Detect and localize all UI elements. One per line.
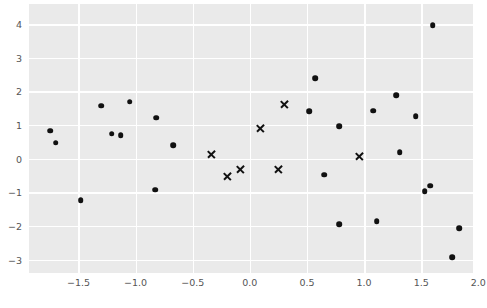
y-gridline [29, 260, 473, 261]
x-gridline [136, 4, 137, 273]
x-gridline [364, 4, 365, 273]
x-tick-label: 1.0 [357, 277, 372, 288]
x-tick-label: 0.5 [299, 277, 314, 288]
data-point-cross [236, 165, 245, 174]
data-point-circle [336, 123, 342, 129]
data-point-cross [223, 172, 232, 181]
y-gridline [29, 91, 473, 92]
data-point-circle [118, 133, 124, 139]
y-tick-label: 0 [16, 153, 22, 164]
x-gridline [421, 4, 422, 273]
y-gridline [29, 125, 473, 126]
data-point-circle [153, 115, 159, 121]
data-point-circle [321, 172, 327, 178]
y-gridline [29, 226, 473, 227]
y-tick-label: 2 [16, 86, 22, 97]
data-point-circle [370, 108, 376, 114]
data-point-circle [47, 128, 53, 134]
y-gridline [29, 159, 473, 160]
y-gridline [29, 192, 473, 193]
y-gridline [29, 58, 473, 59]
data-point-circle [312, 75, 318, 81]
data-point-circle [152, 187, 158, 193]
data-point-circle [413, 114, 419, 120]
data-point-cross [355, 152, 364, 161]
x-tick-label: 1.5 [414, 277, 429, 288]
x-gridline [250, 4, 251, 273]
data-point-circle [456, 225, 462, 231]
data-point-circle [171, 142, 177, 148]
x-tick-label: 2.0 [471, 277, 486, 288]
data-point-circle [393, 93, 399, 99]
y-tick-label: −1 [8, 187, 22, 198]
x-tick-label: −1.5 [67, 277, 90, 288]
data-point-circle [336, 221, 342, 227]
scatter-plot-figure: −1.5−1.0−0.50.00.51.01.52.043210−1−2−3 [0, 0, 487, 308]
x-tick-label: 0.0 [242, 277, 257, 288]
data-point-circle [127, 99, 133, 105]
x-tick-label: −0.5 [181, 277, 204, 288]
data-point-circle [109, 131, 115, 137]
plot-area [29, 4, 473, 273]
data-point-circle [430, 22, 436, 28]
x-gridline [307, 4, 308, 273]
data-point-cross [207, 150, 216, 159]
data-point-circle [99, 103, 105, 109]
y-gridline [29, 24, 473, 25]
data-point-circle [374, 218, 380, 224]
x-gridline [78, 4, 79, 273]
data-point-circle [428, 183, 434, 189]
data-point-circle [422, 188, 428, 194]
x-tick-label: −1.0 [124, 277, 147, 288]
data-point-circle [449, 254, 455, 260]
data-point-circle [306, 108, 312, 114]
y-tick-label: 4 [16, 19, 22, 30]
data-point-circle [397, 149, 403, 155]
y-tick-label: 3 [16, 52, 22, 63]
y-tick-label: −2 [8, 220, 22, 231]
data-point-cross [280, 99, 289, 108]
data-point-cross [274, 165, 283, 174]
data-point-cross [256, 124, 265, 133]
y-tick-label: −3 [8, 254, 22, 265]
data-point-circle [53, 140, 59, 146]
y-tick-label: 1 [16, 120, 22, 131]
x-gridline [193, 4, 194, 273]
data-point-circle [78, 198, 84, 204]
